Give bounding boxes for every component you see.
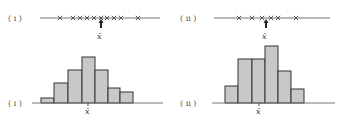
- panel-ii-histogram-label: ( ii ): [180, 99, 196, 108]
- panel-i-histogram-label: ( i ): [8, 99, 22, 108]
- panel-i-dot-plot-label: ( i ): [8, 14, 22, 23]
- histogram-bar: [54, 83, 68, 103]
- histogram-bar: [108, 88, 120, 103]
- panel-ii-dot-mean-label: x̄: [262, 32, 267, 41]
- histogram-bar: [265, 46, 278, 103]
- histogram-bar: [82, 57, 95, 103]
- histogram-bar: [41, 98, 54, 103]
- histogram-bar: [291, 89, 304, 103]
- panel-i-dot-mean-label: x̄: [97, 32, 102, 41]
- histogram-bar: [95, 70, 108, 103]
- diagram-canvas: ( i ) ( i ) x̄ x̄ ( ii ) ( ii ) x̄ x̄: [0, 0, 348, 118]
- diagram-graphics: [32, 16, 335, 106]
- histogram-bar: [225, 86, 238, 103]
- histogram-bar: [278, 71, 291, 103]
- panel-ii-dot-plot-label: ( ii ): [180, 14, 196, 23]
- histogram-bar: [252, 59, 265, 103]
- panel-ii-hist-mean-label: x̄: [256, 107, 261, 116]
- histogram-bar: [68, 70, 82, 103]
- panel-i-hist-mean-label: x̄: [85, 107, 90, 116]
- histogram-bar: [120, 92, 133, 103]
- histogram-bar: [238, 59, 252, 103]
